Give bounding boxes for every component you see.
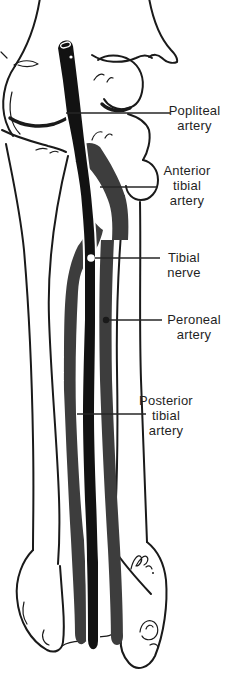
label-anterior-tibial-artery: Anterior tibial artery [156, 163, 218, 208]
artist-signature-dot [152, 572, 154, 574]
plateau-tick-2 [50, 151, 58, 153]
tibial-nerve-marker-dot [87, 254, 95, 262]
femur-right-edge [149, 0, 177, 63]
fibula-head [126, 160, 158, 200]
label-posterior-tibial-artery: Posterior tibial artery [136, 393, 196, 438]
medial-condyle-bottom [102, 104, 130, 111]
medial-condyle-outline [98, 56, 143, 110]
popliteal-highlight-dot [69, 55, 72, 58]
label-peroneal-artery: Peroneal artery [162, 312, 226, 342]
notch-tick-1 [92, 132, 102, 140]
peroneal-marker-dot [103, 317, 109, 323]
lateral-condyle-outline [3, 66, 15, 136]
medial-malleolus-inner-1 [43, 630, 49, 645]
medial-condyle-tick-1 [94, 74, 104, 80]
fibula-lateral-edge [140, 202, 147, 542]
tibia-medial-edge [6, 144, 33, 550]
tibial-plateau-left [2, 130, 66, 152]
lateral-condyle-bottom [10, 116, 70, 126]
medial-malleolus-inner-2 [23, 602, 27, 624]
peroneal-artery-band [99, 240, 123, 645]
lateral-malleolus [121, 542, 167, 668]
label-tibial-nerve: Tibial nerve [158, 250, 210, 280]
label-popliteal-artery: Popliteal artery [163, 103, 226, 133]
tibia-right-top [128, 114, 150, 160]
femur-left-edge [15, 0, 40, 66]
plateau-tick-1 [36, 148, 47, 150]
notch-tick-2 [105, 134, 112, 138]
lateral-condyle-inner [10, 92, 20, 134]
medial-condyle-tick-2 [107, 78, 113, 82]
medial-malleolus [17, 550, 64, 652]
lower-leg-vasculature-figure: Popliteal artery Anterior tibial artery … [0, 0, 226, 676]
edge-tick [1, 52, 7, 58]
lateral-malleolus-ear-outer [140, 621, 158, 640]
lateral-malleolus-ear-inner [146, 625, 153, 629]
artist-signature [131, 556, 152, 569]
lateral-malleolus-tick [150, 644, 158, 647]
